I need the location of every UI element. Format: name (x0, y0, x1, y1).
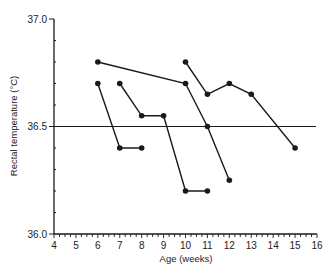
x-tick-label: 14 (268, 240, 280, 251)
x-tick-label: 7 (117, 240, 123, 251)
data-point-marker (95, 81, 101, 87)
data-point-marker (183, 188, 189, 194)
x-tick-label: 12 (224, 240, 236, 251)
x-tick-label: 16 (311, 240, 323, 251)
x-tick-label: 11 (202, 240, 213, 251)
data-point-marker (205, 188, 211, 194)
data-point-marker (248, 91, 254, 97)
data-point-marker (117, 145, 123, 151)
y-tick-label: 36.5 (28, 121, 48, 132)
axes: 36.036.537.045678910111213141516 (28, 14, 323, 252)
y-tick-label: 36.0 (28, 229, 48, 240)
series-line (98, 62, 230, 180)
x-tick-label: 13 (246, 240, 258, 251)
data-point-marker (227, 81, 233, 87)
data-point-marker (117, 81, 123, 87)
data-point-marker (161, 113, 167, 119)
x-tick-label: 6 (95, 240, 101, 251)
data-point-marker (183, 59, 189, 65)
data-point-marker (95, 59, 101, 65)
data-point-marker (205, 91, 211, 97)
series-line (98, 84, 142, 149)
y-tick-label: 37.0 (28, 14, 48, 25)
y-axis-title: Rectal temperature (°C) (8, 76, 19, 176)
x-tick-label: 10 (180, 240, 192, 251)
data-point-marker (139, 145, 145, 151)
data-point-marker (139, 113, 145, 119)
data-point-marker (227, 177, 233, 183)
x-tick-label: 15 (290, 240, 302, 251)
x-tick-label: 9 (161, 240, 167, 251)
x-tick-label: 8 (139, 240, 145, 251)
data-point-marker (183, 81, 189, 87)
data-point-marker (292, 145, 298, 151)
x-tick-label: 5 (73, 240, 79, 251)
chart: 36.036.537.045678910111213141516 Age (we… (0, 0, 332, 279)
x-axis-title: Age (weeks) (160, 253, 213, 264)
data-point-marker (205, 124, 211, 130)
series-line (186, 62, 296, 148)
x-tick-label: 4 (51, 240, 57, 251)
plot-area (54, 59, 316, 194)
